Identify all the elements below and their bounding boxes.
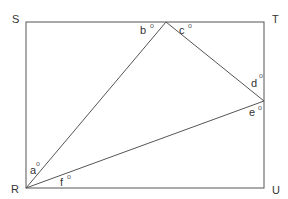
- angle-label-e: e: [249, 106, 255, 118]
- geometry-diagram: S T U R a o b o c o d o e o f o: [0, 0, 288, 199]
- degree-symbol-f: o: [67, 173, 71, 180]
- line-r-to-top-point: [26, 22, 166, 188]
- degree-symbol-e: o: [258, 104, 262, 111]
- angle-label-c: c: [179, 24, 185, 36]
- line-r-to-right-point: [26, 101, 264, 188]
- degree-symbol-d: o: [259, 72, 263, 79]
- angle-label-d: d: [251, 77, 257, 89]
- degree-symbol-c: o: [188, 22, 192, 29]
- vertex-label-u: U: [272, 184, 280, 196]
- vertex-label-r: R: [11, 183, 19, 195]
- vertex-label-t: T: [272, 13, 279, 25]
- angle-label-b: b: [140, 24, 146, 36]
- vertex-label-s: S: [12, 13, 19, 25]
- angle-label-f: f: [60, 176, 64, 188]
- degree-symbol-b: o: [150, 22, 154, 29]
- degree-symbol-a: o: [36, 160, 40, 167]
